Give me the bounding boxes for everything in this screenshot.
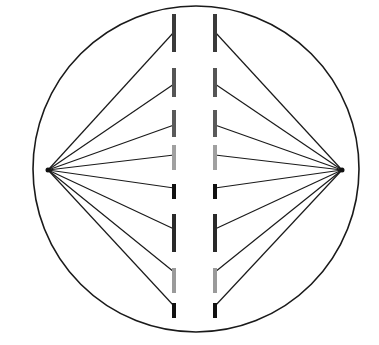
right-chromatid-8 <box>213 303 217 318</box>
left-chromatid-6 <box>172 214 176 252</box>
right-chromatid-5 <box>213 184 217 199</box>
right-chromatid-2 <box>213 68 217 97</box>
right-pole <box>340 168 345 173</box>
left-fiber-8 <box>48 170 174 306</box>
left-chromatid-2 <box>172 68 176 97</box>
right-chromatid-6 <box>213 214 217 252</box>
right-fiber-3 <box>215 125 342 170</box>
spindle-fibers <box>48 32 342 306</box>
right-chromatid-1 <box>213 14 217 52</box>
chromosome-segments <box>172 14 217 318</box>
right-chromatid-4 <box>213 145 217 170</box>
right-fiber-8 <box>215 170 342 306</box>
left-chromatid-4 <box>172 145 176 170</box>
left-fiber-1 <box>48 32 174 170</box>
left-fiber-3 <box>48 125 174 170</box>
right-fiber-1 <box>215 32 342 170</box>
left-pole <box>46 168 51 173</box>
cell-outline <box>33 6 359 332</box>
right-chromatid-3 <box>213 110 217 137</box>
spindle-diagram <box>0 0 379 345</box>
left-chromatid-1 <box>172 14 176 52</box>
left-chromatid-5 <box>172 184 176 199</box>
spindle-poles <box>46 168 345 173</box>
left-chromatid-7 <box>172 268 176 293</box>
left-chromatid-3 <box>172 110 176 137</box>
left-chromatid-8 <box>172 303 176 318</box>
right-chromatid-7 <box>213 268 217 293</box>
